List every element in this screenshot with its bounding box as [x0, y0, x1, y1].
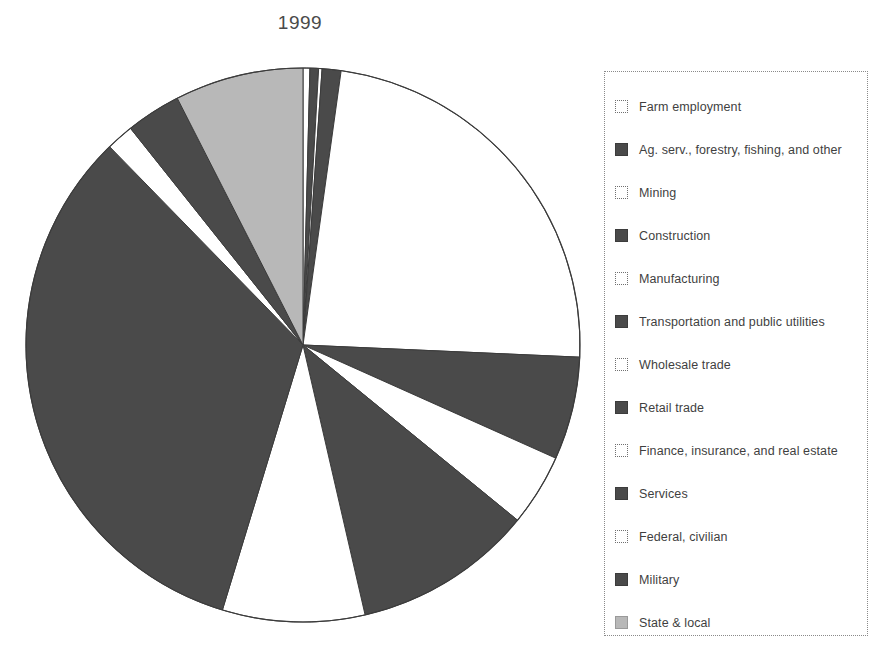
- legend-item[interactable]: Construction: [615, 214, 867, 257]
- legend-item[interactable]: Wholesale trade: [615, 343, 867, 386]
- legend-swatch-icon: [615, 358, 628, 371]
- legend-item-label: Farm employment: [639, 100, 741, 114]
- legend-swatch-icon: [615, 100, 628, 113]
- pie-chart-area: [0, 0, 600, 664]
- legend-list: Farm employmentAg. serv., forestry, fish…: [605, 72, 867, 635]
- legend-item-label: State & local: [639, 616, 710, 630]
- legend-item-label: Mining: [639, 186, 676, 200]
- legend-item-label: Transportation and public utilities: [639, 315, 825, 329]
- legend-item-label: Federal, civilian: [639, 530, 728, 544]
- legend-item[interactable]: State & local: [615, 601, 867, 644]
- legend-item-label: Finance, insurance, and real estate: [639, 444, 838, 458]
- legend-item[interactable]: Mining: [615, 171, 867, 214]
- legend-swatch-icon: [615, 272, 628, 285]
- legend-swatch-icon: [615, 616, 628, 629]
- legend-item[interactable]: Military: [615, 558, 867, 601]
- legend-item[interactable]: Ag. serv., forestry, fishing, and other: [615, 128, 867, 171]
- legend-item[interactable]: Manufacturing: [615, 257, 867, 300]
- legend-item-label: Military: [639, 573, 679, 587]
- legend-item[interactable]: Transportation and public utilities: [615, 300, 867, 343]
- legend-swatch-icon: [615, 487, 628, 500]
- legend-swatch-icon: [615, 573, 628, 586]
- legend-item[interactable]: Retail trade: [615, 386, 867, 429]
- legend: Farm employmentAg. serv., forestry, fish…: [604, 71, 868, 636]
- legend-item-label: Ag. serv., forestry, fishing, and other: [639, 143, 842, 157]
- legend-swatch-icon: [615, 186, 628, 199]
- pie-slice[interactable]: [303, 71, 580, 358]
- legend-item-label: Manufacturing: [639, 272, 720, 286]
- legend-swatch-icon: [615, 315, 628, 328]
- legend-item[interactable]: Services: [615, 472, 867, 515]
- legend-item[interactable]: Finance, insurance, and real estate: [615, 429, 867, 472]
- legend-swatch-icon: [615, 143, 628, 156]
- legend-swatch-icon: [615, 530, 628, 543]
- legend-item-label: Construction: [639, 229, 710, 243]
- legend-item[interactable]: Farm employment: [615, 85, 867, 128]
- legend-item-label: Wholesale trade: [639, 358, 731, 372]
- legend-swatch-icon: [615, 444, 628, 457]
- legend-item[interactable]: Federal, civilian: [615, 515, 867, 558]
- legend-swatch-icon: [615, 229, 628, 242]
- legend-swatch-icon: [615, 401, 628, 414]
- legend-item-label: Retail trade: [639, 401, 704, 415]
- pie-chart-svg: [0, 0, 600, 664]
- pie-slices-group: [26, 68, 580, 622]
- legend-item-label: Services: [639, 487, 688, 501]
